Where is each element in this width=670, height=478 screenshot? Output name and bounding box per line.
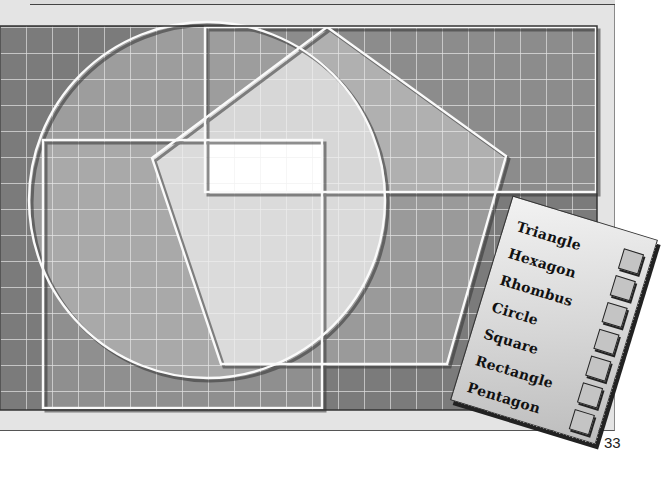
page-number: 33	[604, 434, 621, 451]
answer-checkbox[interactable]	[585, 355, 611, 381]
answer-checkbox[interactable]	[577, 382, 603, 408]
answer-checkbox[interactable]	[602, 301, 628, 327]
answer-checkbox[interactable]	[593, 328, 619, 354]
answer-checkbox[interactable]	[569, 409, 595, 435]
answer-checkbox[interactable]	[610, 275, 636, 301]
answer-checkbox[interactable]	[618, 248, 644, 274]
